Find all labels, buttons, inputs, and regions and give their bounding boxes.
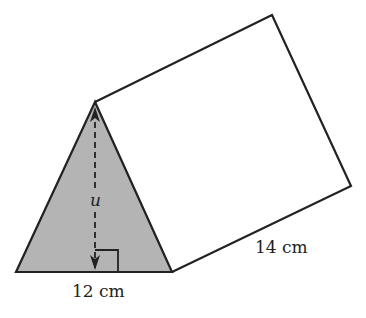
length-label: 14 cm bbox=[255, 237, 308, 257]
triangle-face bbox=[16, 102, 172, 272]
height-label: u bbox=[89, 190, 102, 210]
prism-drawing bbox=[0, 0, 366, 318]
base-label: 12 cm bbox=[72, 281, 125, 301]
prism-diagram: u 12 cm 14 cm bbox=[0, 0, 366, 318]
